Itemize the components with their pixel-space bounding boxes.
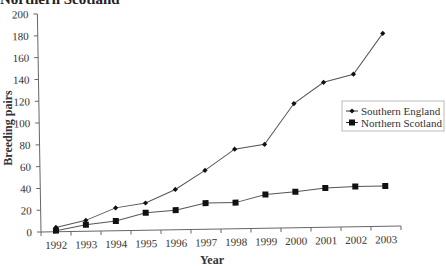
x-tick-label: 1996 <box>165 237 188 249</box>
data-point-northern-scotland <box>232 200 238 206</box>
x-tick-label: 1999 <box>255 235 278 247</box>
x-tick-label: 1998 <box>225 236 248 248</box>
x-tick-label: 1992 <box>45 239 67 251</box>
data-point-northern-scotland <box>53 228 59 234</box>
legend-item-southern-england: Southern England <box>346 105 441 117</box>
data-point-northern-scotland <box>322 185 328 191</box>
x-tick-label: 2001 <box>315 234 337 246</box>
series-line-northern-scotland <box>55 186 386 231</box>
y-tick-label: 120 <box>13 95 30 107</box>
legend-label: Northern Scotland <box>361 117 442 129</box>
line-chart: 020406080100120140160180200 199219931994… <box>0 0 446 266</box>
series-northern-scotland <box>52 183 389 234</box>
data-point-northern-scotland <box>83 222 89 228</box>
x-axis-label: Year <box>200 253 225 266</box>
x-tick-label: 1994 <box>105 238 128 250</box>
data-point-northern-scotland <box>352 183 358 189</box>
y-tick-label: 0 <box>26 226 32 238</box>
x-tick-label: 1997 <box>195 236 218 248</box>
y-tick-label: 140 <box>13 74 30 86</box>
data-point-southern-england <box>173 187 178 192</box>
series-line-southern-england <box>53 33 386 227</box>
legend-label: Southern England <box>361 105 441 117</box>
y-axis-label: Breeding pairs <box>1 90 15 166</box>
x-tick-label: 1995 <box>135 237 158 249</box>
data-point-northern-scotland <box>173 207 179 213</box>
y-tick-label: 40 <box>20 183 32 195</box>
y-tick-label: 100 <box>14 117 31 129</box>
data-point-southern-england <box>113 205 118 210</box>
data-point-northern-scotland <box>382 183 388 189</box>
data-point-northern-scotland <box>292 189 298 195</box>
data-point-northern-scotland <box>202 200 208 206</box>
y-tick-label: 80 <box>19 139 31 151</box>
x-tick-label: 2003 <box>375 233 398 245</box>
data-point-northern-scotland <box>143 210 149 216</box>
data-point-southern-england <box>143 200 148 205</box>
y-tick-label: 200 <box>12 8 29 20</box>
series-southern-england <box>50 31 388 230</box>
data-point-northern-scotland <box>113 218 119 224</box>
x-tick-label: 2002 <box>345 234 367 246</box>
y-tick-label: 60 <box>20 161 32 173</box>
legend: Southern EnglandNorthern Scotland <box>342 101 444 131</box>
y-tick-label: 180 <box>12 30 29 42</box>
legend-item-northern-scotland: Northern Scotland <box>346 117 442 129</box>
x-tick-label: 2000 <box>285 235 308 247</box>
data-point-northern-scotland <box>262 191 268 197</box>
legend-marker-northern-scotland <box>349 120 355 126</box>
y-tick-label: 20 <box>21 204 33 216</box>
x-tick-label: 1993 <box>75 238 98 250</box>
y-tick-label: 160 <box>13 52 30 64</box>
